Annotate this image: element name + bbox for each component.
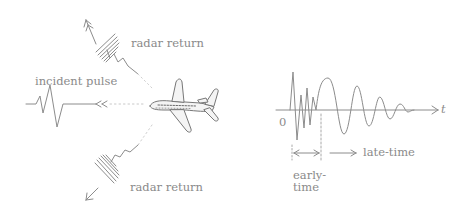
incident-pulse-wave	[26, 85, 145, 127]
early-time-label-line2: time	[293, 182, 319, 194]
radar-return-top-label: radar return	[131, 38, 204, 50]
radar-scattering-diagram: radar return incident pulse radar return…	[0, 0, 469, 219]
radar-return-top-wave	[84, 20, 138, 74]
origin-label: 0	[279, 117, 286, 129]
radar-return-bottom-label: radar return	[130, 182, 203, 194]
time-axis-label: t	[441, 104, 446, 116]
incident-pulse-label: incident pulse	[35, 76, 117, 88]
diagram-graphics	[0, 0, 469, 219]
airplane-icon	[150, 79, 218, 132]
late-time-label: late-time	[363, 147, 415, 159]
